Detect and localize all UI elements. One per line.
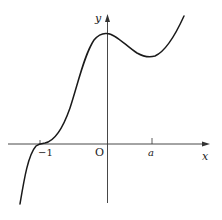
function-curve (20, 16, 184, 204)
tick-label-minus-one: −1 (38, 148, 53, 158)
x-axis-label: x (202, 151, 208, 162)
graph-canvas (0, 0, 222, 220)
y-axis-arrow-icon (105, 14, 110, 22)
origin-label: O (95, 147, 104, 158)
tick-label-a: a (148, 148, 154, 158)
y-axis-label: y (95, 13, 101, 24)
x-axis-arrow-icon (202, 142, 210, 147)
function-graph: y x O −1 a (0, 0, 222, 220)
